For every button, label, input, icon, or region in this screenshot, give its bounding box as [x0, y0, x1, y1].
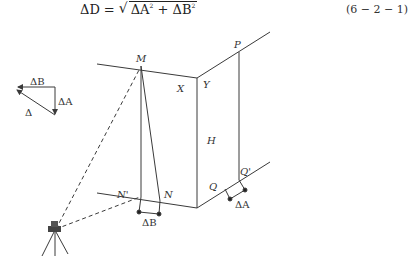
sight-lines — [56, 70, 140, 229]
point-label-n: N — [163, 189, 174, 200]
diagram-canvas: ΔB ΔA Δ — [0, 0, 416, 263]
sight-line-to-m — [56, 70, 139, 229]
delta-b-bracket — [137, 197, 161, 216]
bracket-dot-right — [157, 212, 161, 216]
bottom-front-edge — [97, 193, 197, 208]
delta-resultant-vector — [17, 90, 55, 115]
bracket-span — [230, 190, 245, 199]
offset-label-delta-b: ΔB — [142, 217, 157, 228]
vector-label-delta: Δ — [25, 107, 32, 118]
bottom-side-edge — [197, 162, 270, 208]
vector-triangle: ΔB ΔA Δ — [17, 76, 73, 118]
point-label-q: Q — [209, 181, 217, 192]
sight-line-to-n-prime — [56, 197, 140, 229]
building-outline — [97, 32, 270, 208]
point-label-q-prime: Q' — [240, 166, 251, 177]
point-label-x: X — [176, 83, 185, 94]
bracket-dot-left — [137, 210, 141, 214]
bracket-dot-left — [228, 197, 232, 201]
bracket-span — [139, 212, 159, 214]
bracket-dot-right — [243, 188, 247, 192]
point-label-p: P — [233, 39, 241, 50]
point-label-m: M — [135, 53, 147, 64]
m-projection-line — [141, 66, 160, 201]
offset-label-delta-a: ΔA — [235, 199, 250, 210]
top-front-edge — [97, 64, 197, 78]
point-label-n-prime: N' — [116, 189, 129, 200]
vector-label-delta-a: ΔA — [58, 96, 73, 107]
point-label-y: Y — [203, 79, 211, 90]
point-label-h: H — [206, 135, 216, 146]
vector-label-delta-b: ΔB — [30, 76, 45, 87]
